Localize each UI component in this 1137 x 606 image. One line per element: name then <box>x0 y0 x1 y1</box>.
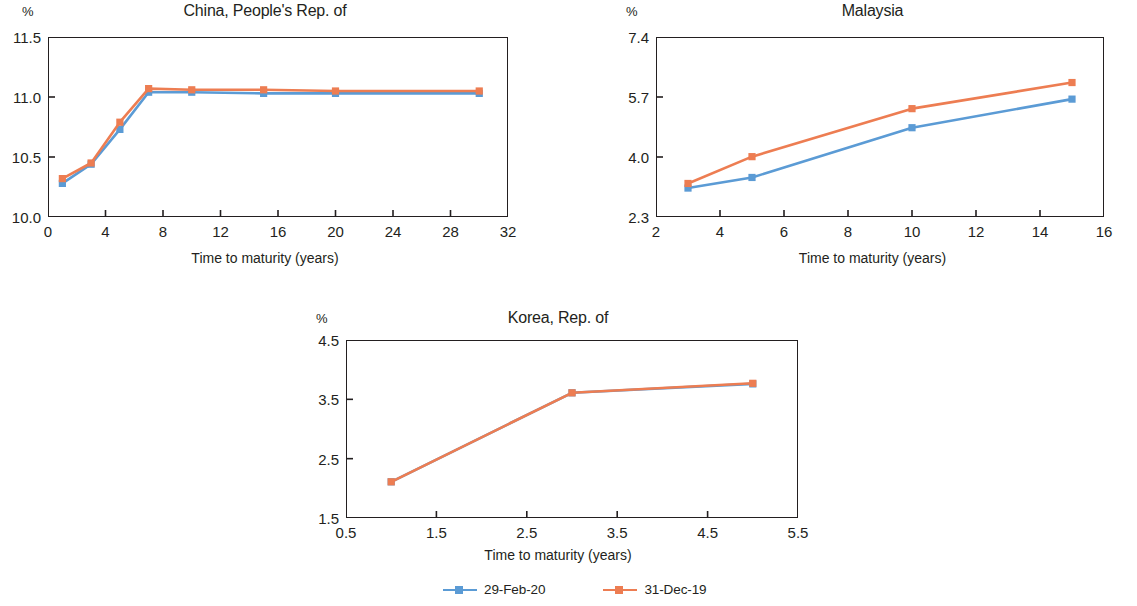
series-layer-china <box>0 0 530 280</box>
data-point-marker <box>749 380 756 387</box>
legend-swatch-icon-series-1 <box>443 584 477 596</box>
data-point-marker <box>684 180 691 187</box>
data-point-marker <box>145 85 152 92</box>
series-line-china-2 <box>62 89 479 179</box>
legend-label-series-1: 29-Feb-20 <box>484 582 545 597</box>
chart-panel-korea: Korea, Rep. of % Time to maturity (years… <box>288 305 828 565</box>
legend-entry-29-feb-20[interactable]: 29-Feb-20 <box>443 582 545 597</box>
legend-entry-31-dec-19[interactable]: 31-Dec-19 <box>603 582 706 597</box>
series-layer-malaysia <box>608 0 1137 280</box>
data-point-marker <box>1068 79 1075 86</box>
legend-label-series-2: 31-Dec-19 <box>644 582 706 597</box>
legend-swatch-icon-series-2 <box>603 584 637 596</box>
data-point-marker <box>908 105 915 112</box>
data-point-marker <box>260 86 267 93</box>
series-layer-korea <box>288 305 828 565</box>
data-point-marker <box>748 174 755 181</box>
data-point-marker <box>1068 96 1075 103</box>
data-point-marker <box>748 153 755 160</box>
data-point-marker <box>188 86 195 93</box>
data-point-marker <box>476 87 483 94</box>
data-point-marker <box>116 119 123 126</box>
data-point-marker <box>568 389 575 396</box>
data-point-marker <box>908 124 915 131</box>
data-point-marker <box>388 478 395 485</box>
chart-panel-malaysia: Malaysia % Time to maturity (years) 2.34… <box>608 0 1137 280</box>
chart-panel-china: China, People's Rep. of % Time to maturi… <box>0 0 530 280</box>
chart-legend: 29-Feb-20 31-Dec-19 <box>443 582 707 597</box>
series-line-korea-2 <box>391 383 753 482</box>
series-line-malaysia-1 <box>688 99 1072 188</box>
series-line-china-1 <box>62 92 479 183</box>
series-line-korea-1 <box>391 384 753 482</box>
data-point-marker <box>332 87 339 94</box>
data-point-marker <box>59 175 66 182</box>
series-line-malaysia-2 <box>688 83 1072 184</box>
data-point-marker <box>88 159 95 166</box>
